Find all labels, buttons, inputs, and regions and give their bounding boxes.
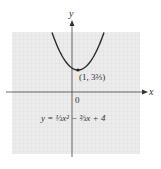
equation-label: y = ⅓x² − ⅔x + 4 bbox=[41, 114, 105, 123]
x-axis-arrow bbox=[142, 90, 148, 95]
y-axis-label: y bbox=[69, 9, 73, 19]
y-axis-arrow bbox=[70, 20, 75, 26]
x-axis-label: x bbox=[149, 87, 153, 97]
parabola-graph bbox=[0, 0, 161, 169]
vertex-label: (1, 3⅔) bbox=[79, 73, 105, 82]
origin-label: 0 bbox=[75, 96, 80, 105]
grid-area bbox=[12, 32, 140, 154]
